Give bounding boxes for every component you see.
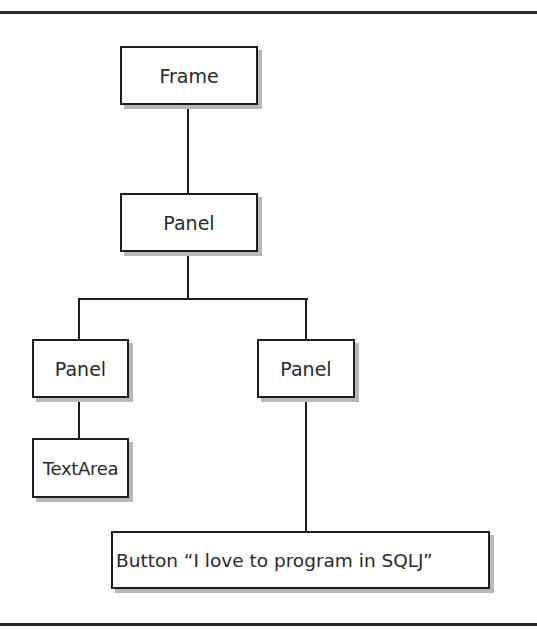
top-rule	[0, 11, 537, 14]
node-panel-root-label: Panel	[163, 212, 214, 234]
node-panel-left-label: Panel	[55, 358, 106, 380]
connector-frame-panel	[187, 104, 189, 194]
bottom-rule	[0, 623, 537, 626]
connector-right-button	[305, 397, 307, 532]
connector-bus	[78, 298, 308, 300]
node-button: Button “I love to program in SQLJ”	[111, 531, 490, 589]
node-panel-root: Panel	[120, 193, 258, 252]
connector-left-textarea	[78, 397, 80, 439]
node-textarea: TextArea	[32, 438, 129, 498]
node-textarea-label: TextArea	[43, 458, 118, 479]
node-panel-right-label: Panel	[280, 358, 331, 380]
node-panel-left: Panel	[32, 339, 129, 398]
connector-bus-right	[305, 298, 307, 340]
node-button-label: Button “I love to program in SQLJ”	[116, 550, 433, 571]
connector-bus-left	[78, 298, 80, 340]
node-frame-label: Frame	[159, 65, 218, 87]
node-frame: Frame	[120, 46, 258, 105]
node-panel-right: Panel	[257, 339, 355, 398]
connector-panel-bus	[187, 251, 189, 299]
